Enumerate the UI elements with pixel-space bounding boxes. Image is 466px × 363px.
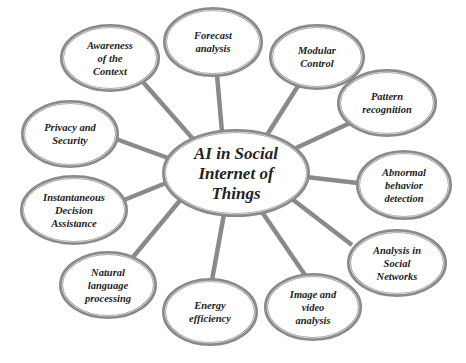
center-node-group: AI in SocialInternet ofThings xyxy=(164,131,308,215)
edge-awareness xyxy=(143,82,193,139)
node-privacy: Privacy andSecurity xyxy=(23,102,117,166)
node-ellipse xyxy=(271,26,363,88)
node-label-line: Decision xyxy=(54,205,93,216)
node-ellipse xyxy=(165,9,261,75)
edge-instantaneous xyxy=(124,183,166,200)
node-ellipse xyxy=(23,102,117,166)
node-image-video: Image andvideoanalysis xyxy=(266,275,360,339)
node-label-line: Pattern xyxy=(371,91,403,102)
node-label-line: recognition xyxy=(362,104,412,115)
node-forecast: Forecastanalysis xyxy=(165,9,261,75)
mind-map-diagram: Awarenessof theContextForecastanalysisMo… xyxy=(0,0,466,363)
node-nlp: Naturallanguageprocessing xyxy=(61,253,155,317)
node-label-line: Image and xyxy=(289,289,337,300)
node-awareness: Awarenessof theContext xyxy=(62,26,158,90)
center-node: AI in SocialInternet ofThings xyxy=(164,131,308,215)
node-energy: Energyefficiency xyxy=(164,280,256,344)
edge-social-networks xyxy=(292,199,352,245)
node-label-line: language xyxy=(88,280,129,291)
node-label-line: Internet of xyxy=(197,164,275,183)
node-label-line: efficiency xyxy=(189,313,231,324)
node-label-line: Social xyxy=(384,258,411,269)
node-ellipse xyxy=(164,280,256,344)
node-label-line: processing xyxy=(84,293,131,304)
node-social-networks: Analysis inSocialNetworks xyxy=(349,231,445,295)
node-ellipse xyxy=(339,71,435,135)
node-label-line: Modular xyxy=(297,45,337,56)
node-label-line: analysis xyxy=(295,315,330,326)
node-pattern: Patternrecognition xyxy=(339,71,435,135)
node-label-line: Forecast xyxy=(193,30,233,41)
node-label-line: Energy xyxy=(193,300,226,311)
node-label-line: Networks xyxy=(376,271,418,282)
node-label-line: Context xyxy=(93,66,128,77)
node-label-line: Assistance xyxy=(50,218,97,229)
node-label-line: Privacy and xyxy=(44,122,96,133)
edge-forecast xyxy=(217,75,222,132)
node-label-line: Abnormal xyxy=(381,167,426,178)
node-label-line: Things xyxy=(211,184,261,203)
node-label-line: AI in Social xyxy=(193,144,278,163)
node-label-line: of the xyxy=(98,53,123,64)
edge-modular xyxy=(267,86,298,135)
edge-energy xyxy=(212,214,224,280)
node-label-line: behavior xyxy=(385,180,424,191)
node-label-line: Security xyxy=(52,135,88,146)
node-label-line: Analysis in xyxy=(372,245,421,256)
node-modular: ModularControl xyxy=(271,26,363,88)
edge-pattern xyxy=(296,123,350,148)
edge-nlp xyxy=(133,198,182,257)
node-label-line: Awareness xyxy=(86,40,133,51)
node-label-line: Natural xyxy=(90,267,125,278)
edge-image-video xyxy=(262,212,305,275)
node-label-line: video xyxy=(302,302,325,313)
node-label-line: detection xyxy=(384,193,423,204)
node-label-line: Instantaneous xyxy=(42,192,105,203)
edge-privacy xyxy=(116,139,168,158)
node-instantaneous: InstantaneousDecisionAssistance xyxy=(22,177,126,243)
node-label-line: Control xyxy=(300,58,333,69)
node-label-line: analysis xyxy=(195,43,230,54)
edge-abnormal xyxy=(306,177,358,183)
node-abnormal: Abnormalbehaviordetection xyxy=(358,152,450,218)
